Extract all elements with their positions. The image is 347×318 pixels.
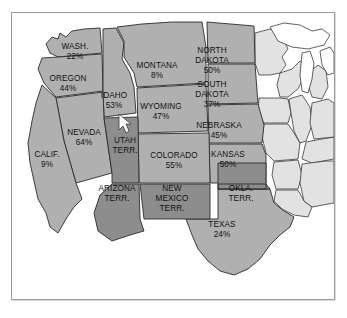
label-south-dakota-line2: DAKOTA	[195, 90, 229, 99]
label-north-dakota-line2: DAKOTA	[195, 56, 229, 65]
label-arizona-status: TERR.	[104, 194, 129, 203]
map-frame-border: WASH. 22% OREGON 44% IDAHO 53% MONTANA 8…	[11, 12, 335, 300]
label-oregon-name: OREGON	[50, 74, 87, 83]
state-indiana-ohio[interactable]	[310, 99, 334, 139]
label-washington-name: WASH.	[61, 42, 88, 51]
label-wyoming-name: WYOMING	[140, 102, 182, 111]
label-colorado-value: 55%	[166, 161, 182, 170]
label-north-dakota-value: 50%	[204, 66, 220, 75]
state-mississippi-alabama[interactable]	[300, 161, 334, 207]
label-washington-value: 22%	[67, 52, 83, 61]
label-kansas-value: 50%	[220, 160, 236, 169]
label-wyoming-value: 47%	[153, 112, 169, 121]
label-texas-value: 24%	[214, 230, 230, 239]
map-figure: WASH. 22% OREGON 44% IDAHO 53% MONTANA 8…	[0, 0, 347, 318]
label-north-dakota-line1: NORTH	[197, 46, 226, 55]
label-texas-name: TEXAS	[208, 220, 236, 229]
state-arkansas[interactable]	[272, 160, 302, 189]
label-nevada-value: 64%	[76, 138, 92, 147]
label-idaho-value: 53%	[106, 101, 122, 110]
label-south-dakota-value: 37%	[204, 100, 220, 109]
label-south-dakota-line1: SOUTH	[197, 80, 226, 89]
us-western-states-map[interactable]: WASH. 22% OREGON 44% IDAHO 53% MONTANA 8…	[12, 13, 334, 299]
label-kansas-name: KANSAS	[211, 150, 245, 159]
label-montana-name: MONTANA	[136, 61, 177, 70]
label-colorado-name: COLORADO	[150, 151, 198, 160]
label-oklahoma-status: TERR.	[228, 194, 253, 203]
label-oklahoma-name: OKLA.	[229, 184, 254, 193]
label-nebraska-name: NEBRASKA	[196, 121, 242, 130]
label-nevada-name: NEVADA	[67, 128, 101, 137]
label-utah-name: UTAH	[114, 136, 136, 145]
label-montana-value: 8%	[151, 71, 163, 80]
label-new-mexico-line2: MEXICO	[156, 194, 189, 203]
state-iowa[interactable]	[258, 98, 291, 123]
label-idaho-name: IDAHO	[101, 91, 127, 100]
label-california-value: 9%	[41, 160, 53, 169]
label-arizona-name: ARIZONA	[98, 184, 136, 193]
state-kentucky-tennessee[interactable]	[302, 137, 334, 163]
label-new-mexico-status: TERR.	[159, 204, 184, 213]
label-new-mexico-line1: NEW	[162, 184, 182, 193]
label-nebraska-value: 45%	[211, 131, 227, 140]
label-oregon-value: 44%	[60, 84, 76, 93]
label-utah-status: TERR.	[112, 146, 137, 155]
label-california-name: CALIF.	[34, 150, 59, 159]
